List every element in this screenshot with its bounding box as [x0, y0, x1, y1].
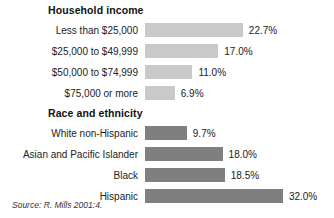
bar-label: White non-Hispanic [0, 128, 138, 139]
bar-value-label: 22.7% [249, 25, 277, 36]
bar-value-label: 18.5% [231, 170, 259, 181]
bar-group-household-income: Less than $25,000 22.7% $25,000 to $49,9… [0, 22, 334, 106]
bar-value-label: 9.7% [193, 128, 216, 139]
bar-group-race-and-ethnicity: White non-Hispanic 9.7% Asian and Pacifi… [0, 125, 334, 209]
bar-segment [145, 147, 223, 161]
bar-value-label: 6.9% [181, 88, 204, 99]
table-row: Black 18.5% [0, 167, 334, 188]
table-row: $50,000 to $74,999 11.0% [0, 64, 334, 85]
bar-segment [145, 44, 218, 58]
table-row: Less than $25,000 22.7% [0, 22, 334, 43]
bar-label: Black [0, 170, 138, 181]
bar-segment [145, 86, 175, 100]
poverty-rate-bar-chart: Household income Less than $25,000 22.7%… [0, 0, 334, 218]
bar-value-label: 17.0% [224, 46, 252, 57]
bar-value-label: 32.0% [289, 191, 317, 202]
bar-label: $50,000 to $74,999 [0, 67, 138, 78]
bar-segment [145, 189, 283, 203]
source-note: Source: R. Mills 2001:4. [12, 200, 102, 210]
bar-segment [145, 126, 187, 140]
bar-label: Asian and Pacific Islander [0, 149, 138, 160]
bar-segment [145, 23, 243, 37]
bar-label: $75,000 or more [0, 88, 138, 99]
bar-segment [145, 65, 192, 79]
bar-value-label: 18.0% [229, 149, 257, 160]
table-row: Asian and Pacific Islander 18.0% [0, 146, 334, 167]
bar-label: Less than $25,000 [0, 25, 138, 36]
section-title-household-income: Household income [48, 4, 144, 16]
table-row: $75,000 or more 6.9% [0, 85, 334, 106]
section-title-race-and-ethnicity: Race and ethnicity [48, 107, 143, 119]
bar-segment [145, 168, 225, 182]
table-row: White non-Hispanic 9.7% [0, 125, 334, 146]
bar-label: $25,000 to $49,999 [0, 46, 138, 57]
bar-value-label: 11.0% [198, 67, 226, 78]
table-row: $25,000 to $49,999 17.0% [0, 43, 334, 64]
